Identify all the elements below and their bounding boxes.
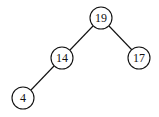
node-label: 19 — [95, 11, 107, 25]
node-label: 17 — [133, 51, 145, 65]
node-label: 4 — [20, 91, 26, 105]
node-label: 14 — [56, 51, 68, 65]
tree-diagram: 19 14 17 4 — [0, 0, 159, 117]
node-19: 19 — [90, 7, 112, 29]
node-17: 17 — [128, 47, 150, 69]
edge-19-17 — [109, 26, 132, 50]
edge-19-14 — [70, 26, 93, 50]
node-14: 14 — [51, 47, 73, 69]
edges — [31, 26, 132, 90]
edge-14-4 — [31, 66, 54, 90]
node-4: 4 — [12, 87, 34, 109]
